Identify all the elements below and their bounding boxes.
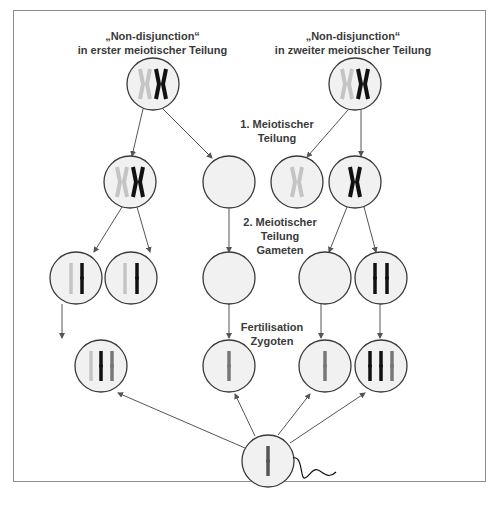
label-meiosis2: 2. Meiotischer Teilung Gameten [235,215,325,257]
header-left: „Non-disjunction“ in erster meiotischer … [75,29,230,57]
cell-left-gamete-a [50,252,102,304]
cell-right-parent [329,58,381,110]
cell-left-gamete-c [203,252,255,304]
cell-left-m1-b [203,156,255,208]
label-fertilisation-line2: Zygoten [232,334,312,348]
cell-left-m1-a [104,156,156,208]
cell-left-gamete-b [105,252,157,304]
header-left-line1: „Non-disjunction“ [75,29,230,43]
cell-right-gamete-a [299,252,351,304]
label-meiosis2-line2: Teilung [235,229,325,243]
label-fertilisation: Fertilisation Zygoten [232,320,312,348]
cell-left-parent [127,58,179,110]
label-meiosis1: 1. Meiotischer Teilung [232,117,322,145]
cell-right-gamete-b [355,252,407,304]
sperm-tail [293,458,336,478]
label-meiosis1-line1: 1. Meiotischer [232,117,322,131]
label-meiosis1-line2: Teilung [232,131,322,145]
header-right: „Non-disjunction“ in zweiter meiotischer… [258,29,448,57]
header-right-line2: in zweiter meiotischer Teilung [258,43,448,57]
label-fertilisation-line1: Fertilisation [232,320,312,334]
label-meiosis2-line3: Gameten [235,243,325,257]
header-left-line2: in erster meiotischer Teilung [75,43,230,57]
header-right-line1: „Non-disjunction“ [258,29,448,43]
label-meiosis2-line1: 2. Meiotischer [235,215,325,229]
